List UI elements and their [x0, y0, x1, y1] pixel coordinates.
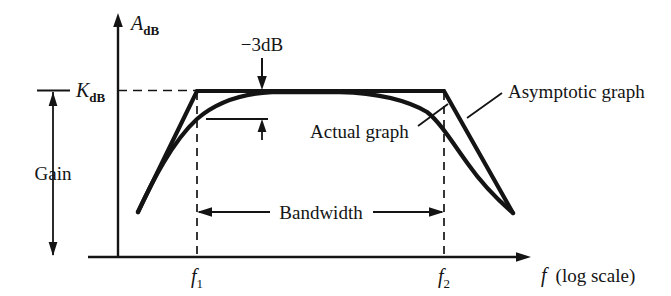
gain-arrowhead-up	[49, 92, 58, 106]
k-db-label-subscript: dB	[89, 90, 105, 105]
y-axis-label-symbol: A	[129, 12, 144, 34]
asymptotic-graph-leader-line	[467, 93, 502, 118]
y-axis-label: AdB	[129, 12, 159, 38]
dashed-guide-group	[118, 91, 444, 258]
x-axis-label-symbol: f	[541, 264, 549, 287]
minus-3db-arrowhead-down	[257, 76, 267, 90]
x-axis-label: f(log scale)	[541, 264, 635, 287]
asymptotic-graph-curve	[138, 91, 513, 213]
f2-tick-label: f2	[438, 265, 450, 291]
gain-arrowhead-down	[49, 242, 58, 256]
bandwidth-arrowhead-left	[197, 207, 212, 216]
bandwidth-label: Bandwidth	[279, 202, 363, 223]
f1-tick-label: f1	[191, 265, 203, 291]
asymptotic-graph-label: Asymptotic graph	[508, 81, 645, 102]
f2-subscript: 2	[444, 276, 451, 291]
x-axis-label-note: (log scale)	[556, 265, 636, 287]
three-db-gap-arrowhead-up	[258, 119, 267, 132]
minus-3db-arrow-group	[257, 58, 267, 90]
bode-plot-svg: AdB KdB −3dB Gain Bandwidth Actual graph…	[0, 0, 671, 296]
gain-label: Gain	[35, 163, 72, 184]
f1-subscript: 1	[197, 276, 204, 291]
k-db-label: KdB	[75, 79, 106, 105]
x-axis-arrowhead	[516, 252, 531, 262]
y-axis-label-subscript: dB	[143, 23, 159, 38]
y-axis-arrowhead	[113, 13, 123, 27]
curve-group	[138, 91, 513, 213]
figure-container: AdB KdB −3dB Gain Bandwidth Actual graph…	[0, 0, 671, 296]
minus-3db-label: −3dB	[241, 34, 283, 55]
three-db-gap-indicator-group	[206, 119, 268, 140]
actual-graph-label: Actual graph	[310, 121, 409, 142]
label-group: AdB KdB −3dB Gain Bandwidth Actual graph…	[35, 12, 646, 291]
bandwidth-arrowhead-right	[429, 207, 444, 216]
